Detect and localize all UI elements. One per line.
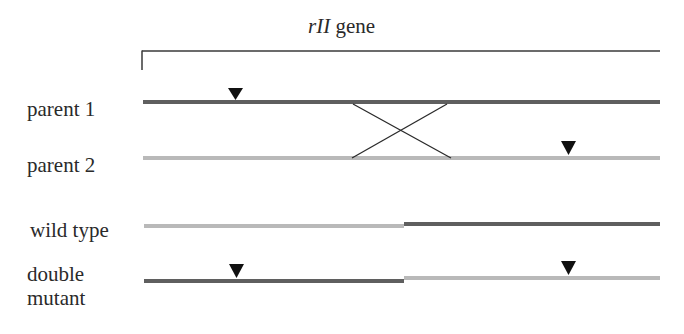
parent1-mutation-marker-icon (228, 88, 243, 100)
double-mutant-chromosome (144, 278, 660, 281)
label-double: double (27, 263, 85, 285)
crossover-icon (352, 104, 451, 158)
gene-bracket (142, 51, 660, 71)
label-parent-1: parent 1 (27, 98, 95, 120)
label-parent-2: parent 2 (27, 154, 95, 176)
label-wild-type: wild type (30, 219, 109, 241)
label-mutant: mutant (27, 287, 85, 309)
parent2-mutation-marker-icon (561, 141, 576, 155)
wild-type-chromosome (144, 224, 660, 226)
double-mutant-marker-left-icon (229, 264, 244, 278)
double-mutant-marker-right-icon (561, 261, 576, 275)
label-double-mutant: double mutant (27, 263, 85, 309)
recombination-diagram (0, 0, 684, 334)
